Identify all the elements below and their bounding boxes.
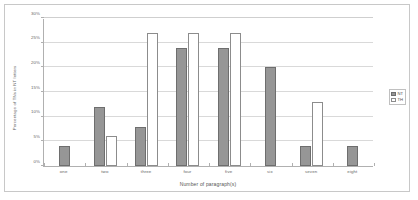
bar-three-nt: [135, 127, 146, 166]
plot-area: 0%5%10%15%20%25%30%: [43, 19, 373, 167]
bar-two-nt: [94, 107, 105, 166]
legend-item-th[interactable]: TH: [391, 97, 403, 103]
x-axis-tickmark: [85, 163, 86, 166]
x-axis-tickmark: [250, 163, 251, 166]
bar-two-th: [106, 136, 117, 166]
x-axis-tickmark: [168, 163, 169, 166]
x-axis-tickmark: [374, 163, 375, 166]
bar-eight-nt: [347, 146, 358, 166]
x-axis-tickmark: [44, 163, 45, 166]
bar-group: [332, 19, 373, 166]
legend-label: NT: [398, 92, 404, 96]
x-axis-tick-label: three: [126, 169, 167, 174]
bar-group: [126, 19, 167, 166]
chart-legend: NTTH: [389, 89, 406, 105]
bar-five-nt: [218, 48, 229, 166]
x-axis-tick-label: eight: [332, 169, 373, 174]
bar-group: [291, 19, 332, 166]
bar-three-th: [147, 33, 158, 166]
x-axis-tickmark: [333, 163, 334, 166]
x-axis-tickmark: [127, 163, 128, 166]
y-axis-tick-label: 0%: [33, 159, 40, 163]
bar-seven-nt: [300, 146, 311, 166]
x-axis-tick-label: five: [208, 169, 249, 174]
legend-swatch-icon: [391, 98, 396, 102]
y-axis-tick-label: 5%: [33, 135, 40, 139]
bar-five-th: [230, 33, 241, 166]
legend-label: TH: [398, 98, 404, 102]
bar-four-th: [188, 33, 199, 166]
x-axis-tick-label: four: [167, 169, 208, 174]
bar-groups: [44, 19, 373, 166]
bar-four-nt: [176, 48, 187, 166]
y-axis-tickmark: [41, 17, 44, 18]
gridline: [44, 17, 373, 18]
x-axis-tick-label: one: [43, 169, 84, 174]
bar-group: [209, 19, 250, 166]
x-axis-tickmark: [292, 163, 293, 166]
x-axis-title: Number of paragraph(s): [43, 181, 373, 187]
bar-group: [250, 19, 291, 166]
bar-six-nt: [265, 67, 276, 166]
bar-seven-th: [312, 102, 323, 166]
x-axis-tickmark: [209, 163, 210, 166]
y-axis-tick-label: 15%: [31, 85, 40, 89]
bar-group: [44, 19, 85, 166]
bar-group: [85, 19, 126, 166]
x-axis-tick-label: seven: [291, 169, 332, 174]
legend-swatch-icon: [391, 92, 396, 96]
x-axis-labels: onetwothreefourfivesixseveneight: [43, 169, 373, 174]
y-axis-title: Percentage of TNs in NT letters: [12, 66, 17, 131]
y-axis-tick-label: 20%: [31, 61, 40, 65]
chart-frame: Percentage of TNs in NT letters 0%5%10%1…: [4, 4, 410, 192]
bar-group: [167, 19, 208, 166]
bar-one-nt: [59, 146, 70, 166]
y-axis-tick-label: 10%: [31, 110, 40, 114]
y-axis-tick-label: 25%: [31, 36, 40, 40]
x-axis-tick-label: two: [84, 169, 125, 174]
x-axis-tick-label: six: [249, 169, 290, 174]
y-axis-tick-label: 30%: [31, 11, 40, 15]
